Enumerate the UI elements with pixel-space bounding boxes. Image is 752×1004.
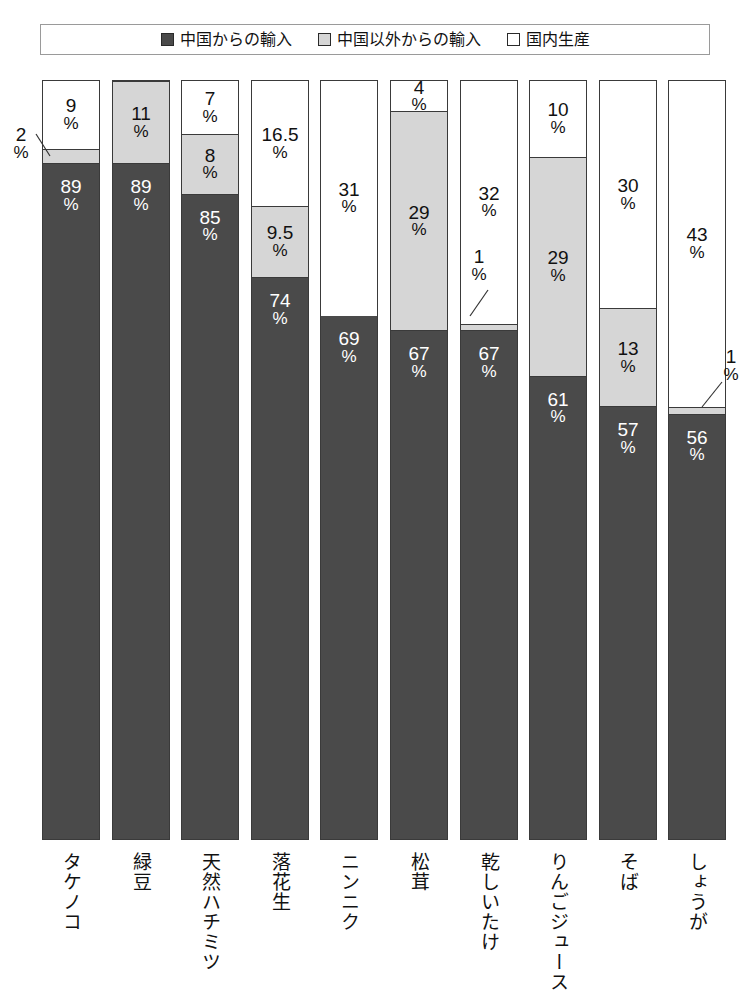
segment-domestic-4: 16.5%: [252, 81, 308, 206]
segment-label-china-import-3: 85%: [199, 209, 220, 244]
segment-china-import-3: 85%: [182, 195, 238, 839]
callout-shouga-other-import: 1%: [712, 348, 750, 383]
callout-hoshishiitake-other-import-leader-line: [466, 290, 500, 322]
segment-label-domestic-5: 31%: [338, 181, 359, 216]
category-label-3: 天然ハチミツ: [181, 852, 239, 1002]
segment-domestic-7: 32%: [461, 81, 517, 324]
category-label-6: 松茸: [390, 852, 448, 1002]
bar-5[interactable]: 31%69%: [320, 80, 378, 840]
segment-label-china-import-8: 61%: [547, 391, 568, 426]
segment-label-china-import-10: 56%: [686, 429, 707, 464]
segment-label-china-import-9: 57%: [617, 421, 638, 456]
segment-label-china-import-7: 67%: [478, 345, 499, 380]
bar-3[interactable]: 7%8%85%: [181, 80, 239, 840]
bar-1[interactable]: 9%89%: [42, 80, 100, 840]
bar-9[interactable]: 30%13%57%: [599, 80, 657, 840]
segment-label-domestic-6: 4%: [411, 79, 426, 114]
category-label-7: 乾しいたけ: [460, 852, 518, 1002]
bar-7[interactable]: 32%67%: [460, 80, 518, 840]
segment-other-import-3: 8%: [182, 134, 238, 195]
segment-domestic-9: 30%: [600, 81, 656, 308]
category-label-9: そば: [599, 852, 657, 1002]
segment-other-import-6: 29%: [391, 111, 447, 331]
segment-label-domestic-9: 30%: [617, 177, 638, 212]
category-label-2: 緑豆: [112, 852, 170, 1002]
segment-label-domestic-3: 7%: [202, 90, 217, 125]
segment-china-import-10: 56%: [669, 415, 725, 839]
segment-other-import-7: [461, 324, 517, 332]
segment-label-china-import-4: 74%: [269, 292, 290, 327]
segment-china-import-8: 61%: [530, 377, 586, 839]
segment-domestic-3: 7%: [182, 81, 238, 134]
segment-other-import-2: 11%: [113, 81, 169, 164]
segment-other-import-4: 9.5%: [252, 206, 308, 278]
segment-label-china-import-1: 89%: [60, 178, 81, 213]
segment-label-domestic-10: 43%: [686, 226, 707, 261]
segment-china-import-6: 67%: [391, 331, 447, 839]
segment-label-domestic-4: 16.5%: [262, 126, 299, 161]
category-label-4: 落花生: [251, 852, 309, 1002]
stacked-bar-plot: 9%89%タケノコ11%89%緑豆7%8%85%天然ハチミツ16.5%9.5%7…: [0, 0, 752, 1004]
segment-domestic-5: 31%: [321, 81, 377, 316]
segment-china-import-1: 89%: [43, 164, 99, 839]
segment-china-import-5: 69%: [321, 316, 377, 839]
callout-takenoko-other-import: 2%: [2, 126, 40, 161]
callout-takenoko-other-import-leader-line: [36, 130, 62, 170]
segment-label-other-import-2: 11%: [131, 105, 151, 140]
segment-label-other-import-9: 13%: [617, 340, 638, 375]
segment-other-import-8: 29%: [530, 157, 586, 377]
segment-label-domestic-7: 32%: [478, 185, 499, 220]
category-label-1: タケノコ: [42, 852, 100, 1002]
bar-6[interactable]: 4%29%67%: [390, 80, 448, 840]
segment-label-other-import-8: 29%: [547, 249, 568, 284]
segment-label-other-import-3: 8%: [202, 147, 217, 182]
segment-label-china-import-6: 67%: [408, 345, 429, 380]
segment-china-import-4: 74%: [252, 278, 308, 839]
segment-china-import-7: 67%: [461, 331, 517, 839]
bar-8[interactable]: 10%29%61%: [529, 80, 587, 840]
callout-shouga-other-import-leader-line: [690, 382, 726, 412]
segment-label-china-import-2: 89%: [130, 178, 151, 213]
bar-2[interactable]: 11%89%: [112, 80, 170, 840]
segment-other-import-9: 13%: [600, 308, 656, 407]
bar-10[interactable]: 43%56%: [668, 80, 726, 840]
category-label-10: しょうが: [668, 852, 726, 1002]
segment-china-import-9: 57%: [600, 407, 656, 839]
category-label-8: りんごジュース: [529, 852, 587, 1002]
segment-label-domestic-8: 10%: [547, 101, 568, 136]
segment-domestic-8: 10%: [530, 81, 586, 157]
segment-china-import-2: 89%: [113, 164, 169, 839]
bar-4[interactable]: 16.5%9.5%74%: [251, 80, 309, 840]
chart-page: 中国からの輸入 中国以外からの輸入 国内生産 9%89%タケノコ11%89%緑豆…: [0, 0, 752, 1004]
segment-label-other-import-6: 29%: [408, 204, 429, 239]
segment-label-other-import-4: 9.5%: [267, 224, 293, 259]
segment-label-china-import-5: 69%: [338, 330, 359, 365]
callout-hoshishiitake-other-import: 1%: [460, 248, 498, 283]
category-label-5: ニンニク: [320, 852, 378, 1002]
segment-domestic-6: 4%: [391, 81, 447, 111]
segment-label-domestic-1: 9%: [63, 97, 78, 132]
